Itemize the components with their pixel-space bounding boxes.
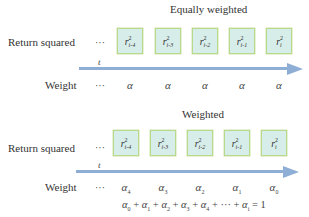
return-box-label: r2i-4 bbox=[114, 137, 138, 150]
return-box: r2i-4 bbox=[117, 28, 143, 54]
weight-value: α bbox=[155, 79, 181, 93]
return-box-label: r2i-4 bbox=[118, 35, 142, 48]
return-box-label: r2i-1 bbox=[225, 137, 249, 150]
return-box: r2i bbox=[266, 28, 292, 54]
return-box-label: r2i bbox=[267, 35, 291, 48]
section-title: Weighted bbox=[182, 108, 224, 120]
time-axis-label: t bbox=[98, 160, 101, 170]
time-arrow bbox=[79, 67, 289, 70]
weight-value: α bbox=[192, 79, 218, 93]
weight-value: α0 bbox=[261, 181, 287, 195]
return-box: r2i bbox=[261, 130, 287, 156]
arrowhead-icon bbox=[283, 166, 299, 178]
weight-value: α bbox=[266, 79, 292, 93]
ellipsis: ··· bbox=[95, 142, 105, 153]
return-box: r2i-4 bbox=[113, 130, 139, 156]
weight-label: Weight bbox=[45, 181, 77, 193]
ellipsis: ··· bbox=[95, 80, 105, 91]
weight-value: α1 bbox=[224, 181, 250, 195]
return-box: r2i-2 bbox=[192, 28, 218, 54]
ellipsis: ··· bbox=[95, 37, 105, 48]
return-box-label: r2i-3 bbox=[156, 35, 180, 48]
return-squared-label: Return squared bbox=[8, 142, 75, 154]
weight-value: α bbox=[117, 79, 143, 93]
return-box-label: r2i-3 bbox=[151, 137, 175, 150]
return-box-label: r2i bbox=[262, 137, 286, 150]
arrowhead-icon bbox=[287, 63, 303, 75]
return-box: r2i-3 bbox=[150, 130, 176, 156]
return-box-label: r2i-2 bbox=[193, 35, 217, 48]
return-box: r2i-1 bbox=[229, 28, 255, 54]
weight-value: α3 bbox=[150, 181, 176, 195]
section-title: Equally weighted bbox=[170, 3, 247, 15]
return-box: r2i-3 bbox=[155, 28, 181, 54]
return-box-label: r2i-1 bbox=[230, 35, 254, 48]
weight-label: Weight bbox=[45, 79, 77, 91]
time-axis-label: t bbox=[98, 57, 101, 67]
weight-value: α2 bbox=[187, 181, 213, 195]
return-box: r2i-2 bbox=[187, 130, 213, 156]
time-arrow bbox=[76, 170, 284, 173]
return-box-label: r2i-2 bbox=[188, 137, 212, 150]
ellipsis: ··· bbox=[95, 182, 105, 193]
return-squared-label: Return squared bbox=[8, 36, 75, 48]
return-box: r2i-1 bbox=[224, 130, 250, 156]
weight-value: α4 bbox=[113, 181, 139, 195]
weight-value: α bbox=[229, 79, 255, 93]
weights-sum-equation: α0 + α1 + α2 + α3 + α4 + ··· + αi = 1 bbox=[122, 199, 266, 212]
